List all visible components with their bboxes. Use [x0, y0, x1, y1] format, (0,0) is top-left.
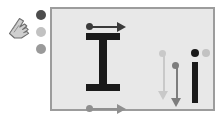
i-glyph-stem — [192, 62, 198, 103]
figure-canvas: hand-pointer-icon — [0, 0, 223, 124]
beam-height-arrow[interactable] — [158, 50, 169, 100]
legend-dot-medium[interactable] — [36, 44, 46, 54]
legend-dot-light[interactable] — [36, 27, 46, 37]
i-glyph-shape[interactable] — [178, 49, 210, 104]
hand-pointer-icon[interactable] — [7, 14, 33, 42]
i-glyph-height-arrow[interactable] — [171, 62, 182, 106]
arrow-shaft — [92, 26, 118, 28]
diagram-panel — [50, 7, 215, 111]
arrow-head-down-icon — [158, 91, 168, 100]
top-width-arrow[interactable] — [86, 21, 126, 32]
legend-cluster: hand-pointer-icon — [4, 8, 50, 62]
arrow-head-right-icon — [117, 22, 126, 32]
arrow-head-right-icon — [117, 104, 126, 114]
arrow-shaft — [163, 56, 165, 92]
arrow-shaft — [176, 68, 178, 99]
i-glyph-ghost-dot — [202, 49, 210, 57]
legend-dot-dark[interactable] — [36, 10, 46, 20]
i-beam-bottom-flange — [86, 84, 120, 91]
arrow-shaft — [92, 108, 118, 110]
i-beam-web — [99, 39, 107, 85]
i-glyph-tittle-dot — [191, 49, 199, 57]
bottom-width-arrow[interactable] — [86, 103, 126, 114]
arrow-head-down-icon — [171, 98, 181, 107]
